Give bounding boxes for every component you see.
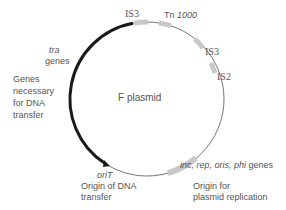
tra-description: Genes necessary for DNA transfer: [13, 73, 54, 121]
oriT-label: oriT: [97, 170, 113, 181]
tn1000-label: Tn 1000: [164, 10, 197, 21]
f-plasmid-diagram: IS3 Tn 1000 IS3 IS2 F plasmid tra genes …: [0, 0, 286, 210]
oriT-description: Origin of DNA transfer: [81, 181, 137, 203]
is2-label: IS2: [217, 71, 231, 82]
is3-top-label: IS3: [125, 8, 139, 19]
plasmid-title: F plasmid: [118, 92, 161, 103]
tn1000-element: [159, 23, 171, 26]
tra-gene-name: tra: [49, 45, 60, 56]
is3-top-element: [134, 22, 148, 23]
oriT-arrow-icon: [103, 160, 110, 167]
replication-genes-label: inc, rep, oris, phi genes: [180, 160, 273, 171]
is3-right-element: [195, 39, 203, 48]
is2-element: [211, 63, 215, 73]
is3-right-label: IS3: [205, 46, 219, 57]
replication-description: Origin for plasmid replication: [193, 181, 268, 203]
tra-gene-word: genes: [45, 56, 70, 67]
